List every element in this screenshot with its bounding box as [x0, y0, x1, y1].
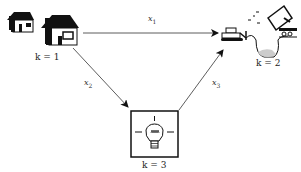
- edge-label-x3: x3: [212, 78, 220, 89]
- node-label-k2: k = 2: [256, 58, 280, 68]
- node-label-k1: k = 1: [35, 52, 59, 62]
- edge-x2: [73, 48, 128, 107]
- flow-diagram: [0, 0, 301, 172]
- edge-label-x2-sub: 2: [89, 82, 93, 89]
- edge-label-x2: x2: [84, 78, 92, 89]
- lightbulb-icon: [131, 111, 178, 157]
- edge-label-x1-sub: 1: [153, 18, 157, 25]
- houses-icon: [7, 12, 79, 45]
- edge-label-x1: x1: [148, 14, 156, 25]
- landfill-icon: [221, 6, 297, 57]
- node-label-k3: k = 3: [142, 160, 166, 170]
- edge-label-x3-sub: 3: [217, 82, 221, 89]
